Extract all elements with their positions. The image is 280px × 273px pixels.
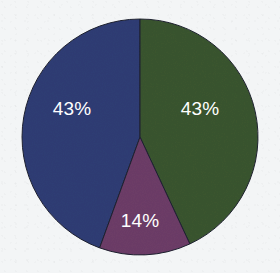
pie-label-green: 43% [181,98,220,119]
pie-label-purple: 14% [121,210,160,231]
pie-chart-container: 43% 43% 14% [0,0,280,273]
pie-chart-svg: 43% 43% 14% [0,0,280,273]
pie-label-blue: 43% [53,98,92,119]
